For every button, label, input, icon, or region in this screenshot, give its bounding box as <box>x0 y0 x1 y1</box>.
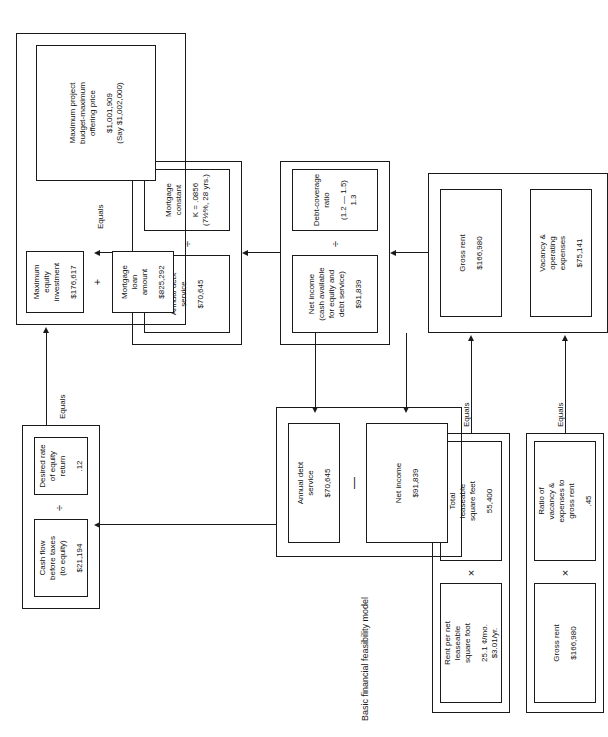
connector-ads-feed <box>315 333 316 407</box>
box-label: Debt-coverage ratio <box>312 174 332 226</box>
connector-grossrent-to-netincome <box>396 252 428 253</box>
box-label: Gross rent <box>458 234 468 271</box>
box-net-income-simple: Net income $91,839 <box>366 423 448 543</box>
arrow-equity-to-maxequity <box>43 327 49 333</box>
arrow-netincome-feed <box>403 407 409 413</box>
equals-label-expense-row: Equals <box>556 403 565 427</box>
box-label: Cash flow before taxes (to equity) <box>38 536 68 580</box>
operator-minus: — <box>348 476 360 490</box>
operator-divide-3: ÷ <box>54 501 65 515</box>
box-value: $70,645 <box>323 469 333 498</box>
operator-multiply-1: × <box>466 566 477 580</box>
arrow-grossrent-to-netincome <box>390 251 396 257</box>
connector-rent-to-grossrent <box>471 341 472 433</box>
box-label: Desired rate of equity return <box>38 444 68 488</box>
operator-plus: + <box>92 275 103 289</box>
box-label: Annual debt service <box>296 462 316 505</box>
box-value: .45 <box>584 495 594 506</box>
box-value: $176,617 <box>69 265 79 298</box>
connector-equity-to-maxequity <box>46 333 47 425</box>
box-desired-equity-return: Desired rate of equity return .12 <box>34 437 88 495</box>
box-value: $166,980 <box>569 626 579 659</box>
box-rent-per-square-foot: Rent per net leaseable square foot 25.1 … <box>440 583 502 703</box>
box-debt-coverage-ratio: Debt-coverage ratio (1.2 — 1.5) 1.3 <box>292 169 378 231</box>
equals-label-rent-row: Equals <box>462 403 471 427</box>
box-value: .12 <box>75 460 85 471</box>
connector-expense-to-vacancy <box>565 341 566 433</box>
box-annual-debt-service-subtract: Annual debt service $70,645 <box>288 423 340 543</box>
connector-netincome-to-ads <box>248 252 280 253</box>
box-maximum-project-budget: Maximum project budget-maximum offering … <box>36 45 156 181</box>
box-label: Net income <box>394 463 404 503</box>
operator-divide-1: ÷ <box>330 237 341 251</box>
box-label: Vacancy & operating expenses <box>538 234 568 272</box>
box-value: $166,980 <box>475 236 485 269</box>
box-label: Maximum equity investment <box>32 263 62 302</box>
box-value: (1.2 — 1.5) 1.3 <box>339 180 359 220</box>
box-value: K = .0856 (7½%, 28 yrs.) <box>191 174 211 226</box>
box-net-income-available: Net income (cash available for equity an… <box>292 255 378 333</box>
box-label: Ratio of vacancy & expenses to gross ren… <box>537 479 577 522</box>
arrow-rent-to-grossrent <box>468 335 474 341</box>
box-label: Gross rent <box>552 624 562 661</box>
box-value: $825,292 <box>157 265 167 298</box>
box-label: Mortgage loan amount <box>120 265 150 299</box>
box-gross-rent-total: Gross rent $166,980 <box>440 189 502 317</box>
arrow-netincome-to-ads <box>242 251 248 257</box>
box-value: $75,141 <box>575 239 585 268</box>
box-value: $91,839 <box>411 469 421 498</box>
connector-cashflow-riser <box>100 524 276 525</box>
connector-netincome-feed <box>406 333 407 407</box>
box-value: $91,839 <box>354 280 364 309</box>
box-value: $1,001,909 (Say $1,002,000) <box>105 82 125 143</box>
equals-label-equity: Equals <box>58 395 67 419</box>
box-mortgage-loan-amount: Mortgage loan amount $825,292 <box>112 251 174 313</box>
box-value: 25.1 ¢/mo. $3.01/yr. <box>480 624 500 662</box>
box-value: 55,400 <box>485 489 495 513</box>
box-vacancy-expense-ratio: Ratio of vacancy & expenses to gross ren… <box>534 441 596 561</box>
box-label: Rent per net leaseable square foot <box>443 621 473 665</box>
operator-multiply-2: × <box>560 566 571 580</box>
box-cash-flow-before-taxes: Cash flow before taxes (to equity) $21,1… <box>34 519 88 597</box>
box-label: Net income (cash available for equity an… <box>307 267 347 320</box>
arrow-expense-to-vacancy <box>562 335 568 341</box>
box-label: Maximum project budget-maximum offering … <box>68 82 98 144</box>
equals-label-budget: Equals <box>96 205 105 229</box>
box-vacancy-operating-expenses: Vacancy & operating expenses $75,141 <box>530 189 592 317</box>
arrow-ads-feed <box>312 407 318 413</box>
box-value: $21,194 <box>75 544 85 573</box>
box-value: $70,645 <box>196 280 206 309</box>
box-maximum-equity-investment: Maximum equity investment $176,617 <box>26 251 84 313</box>
figure-title: Basic financial feasibility model <box>360 597 370 721</box>
box-gross-rent-input: Gross rent $166,980 <box>534 583 596 703</box>
